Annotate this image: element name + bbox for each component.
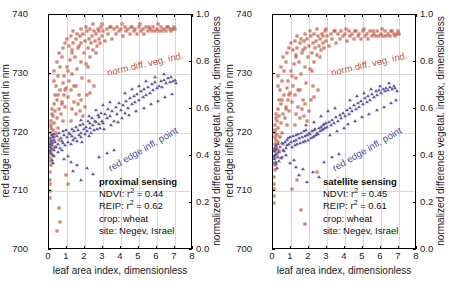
annotation-r2-line: NDVI: r2 = 0.44 <box>99 188 177 200</box>
data-point-reip <box>50 158 54 161</box>
data-point-ndvi <box>61 82 64 85</box>
ytick-label-right: 0.4 <box>420 150 433 160</box>
data-point-reip <box>312 134 316 137</box>
data-point-ndvi <box>75 37 78 40</box>
data-point-ndvi <box>273 157 276 160</box>
data-point-ndvi <box>293 124 296 127</box>
xtick-top <box>326 14 327 17</box>
data-point-reip <box>274 162 278 165</box>
data-point-reip <box>49 151 53 154</box>
xtick-top <box>308 14 309 17</box>
ytick-label-left: 720 <box>12 127 28 137</box>
data-point-ndvi <box>296 35 299 38</box>
data-point-reip <box>134 110 138 113</box>
data-point-reip <box>297 137 301 140</box>
data-point-ndvi <box>272 147 275 150</box>
data-point-reip <box>338 113 342 116</box>
data-point-ndvi <box>81 77 84 80</box>
data-point-ndvi <box>69 119 72 122</box>
data-point-reip <box>273 153 277 156</box>
data-point-ndvi <box>317 89 320 92</box>
data-point-ndvi <box>79 61 82 64</box>
data-point-reip <box>105 117 109 120</box>
data-point-ndvi <box>286 51 289 54</box>
data-point-ndvi <box>52 136 55 139</box>
data-point-reip <box>128 97 132 100</box>
ytick-label-left: 710 <box>236 185 252 195</box>
xtick <box>102 246 103 249</box>
data-point-reip <box>59 137 63 140</box>
ytick-right <box>413 14 416 15</box>
data-point-ndvi <box>73 84 76 87</box>
ytick-label-right: 0.6 <box>420 103 433 113</box>
data-point-ndvi <box>93 30 96 33</box>
data-point-ndvi <box>284 105 287 108</box>
data-point-ndvi <box>54 93 57 96</box>
data-point-ndvi <box>303 65 306 68</box>
data-point-ndvi <box>71 51 74 54</box>
data-point-ndvi <box>338 37 341 40</box>
data-point-reip <box>284 153 288 156</box>
data-point-ndvi <box>283 93 286 96</box>
data-point-reip <box>375 93 379 96</box>
xtick <box>308 246 309 249</box>
data-point-ndvi <box>159 25 162 28</box>
data-point-ndvi <box>98 30 101 33</box>
data-point-reip <box>97 122 101 125</box>
data-point-reip <box>276 155 280 158</box>
data-point-ndvi <box>112 28 115 31</box>
data-point-ndvi <box>93 39 96 42</box>
annotation-site: site: Negev, Israel <box>323 225 398 237</box>
xtick-top <box>344 14 345 17</box>
data-point-ndvi <box>312 61 315 64</box>
data-point-reip <box>317 175 321 178</box>
data-point-reip <box>86 119 90 122</box>
data-point-reip <box>369 87 373 90</box>
data-point-ndvi <box>367 37 370 40</box>
data-point-ndvi <box>50 124 53 127</box>
data-point-ndvi <box>333 30 336 33</box>
data-point-ndvi <box>86 46 89 49</box>
data-point-reip <box>375 108 379 111</box>
data-point-ndvi <box>75 32 78 35</box>
ytick-left <box>48 132 51 133</box>
data-point-ndvi <box>277 108 280 111</box>
data-point-reip <box>286 137 290 140</box>
data-point-reip <box>144 79 148 82</box>
data-point-reip <box>124 99 128 102</box>
data-point-reip <box>88 126 92 129</box>
data-point-ndvi <box>76 103 79 106</box>
data-point-reip <box>304 124 308 127</box>
data-point-reip <box>91 124 95 127</box>
data-point-ndvi <box>99 42 102 45</box>
data-point-ndvi <box>111 37 114 40</box>
xtick-label: 5 <box>135 251 140 261</box>
ytick-label-right: 1.0 <box>420 9 433 19</box>
ytick-right <box>189 108 192 109</box>
data-point-ndvi <box>161 30 164 33</box>
data-point-ndvi <box>89 91 92 94</box>
data-point-ndvi <box>322 35 325 38</box>
data-point-reip <box>75 139 79 142</box>
data-point-reip <box>312 128 316 131</box>
data-point-reip <box>388 85 392 88</box>
data-point-reip <box>76 128 80 131</box>
data-point-reip <box>48 137 52 140</box>
data-point-reip <box>274 144 278 147</box>
data-point-reip <box>49 147 53 150</box>
data-point-ndvi <box>297 105 300 108</box>
data-point-ndvi <box>62 119 65 122</box>
data-point-ndvi <box>374 35 377 38</box>
xtick <box>344 246 345 249</box>
data-point-reip <box>75 163 79 166</box>
data-point-reip <box>330 118 334 121</box>
data-point-reip <box>334 115 338 118</box>
data-point-ndvi <box>302 49 305 52</box>
data-point-reip <box>273 146 277 149</box>
data-point-ndvi <box>87 79 90 82</box>
data-point-ndvi <box>276 140 279 143</box>
xtick-label: 1 <box>287 251 292 261</box>
ytick-right <box>413 155 416 156</box>
data-point-ndvi <box>168 28 171 31</box>
data-point-ndvi <box>296 178 299 181</box>
